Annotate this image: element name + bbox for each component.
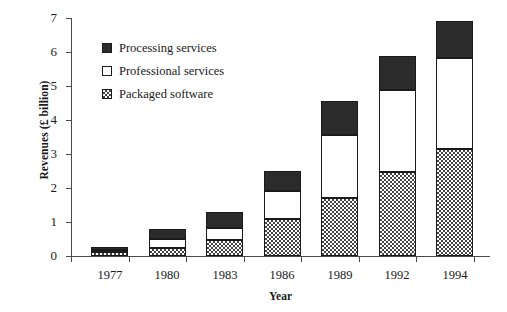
- y-axis-tick-label: 6: [51, 44, 58, 59]
- chart-legend: Processing servicesProfessional services…: [102, 38, 224, 107]
- bar-segment: [436, 149, 473, 256]
- legend-item-label: Processing services: [119, 41, 217, 55]
- y-axis-tick-label: 1: [51, 214, 58, 229]
- y-axis-title: Revenues (£ billion): [38, 40, 50, 220]
- y-axis-tick: 6: [66, 52, 72, 53]
- x-axis-title: Year: [71, 290, 490, 302]
- bar-segment: [264, 171, 301, 191]
- x-axis-tick-label: 1992: [367, 268, 427, 283]
- x-axis-tick: [71, 256, 72, 262]
- legend-item-label: Professional services: [119, 64, 224, 78]
- bar-segment: [149, 229, 186, 239]
- y-axis-tick: 3: [66, 154, 72, 155]
- y-axis-tick: 5: [66, 86, 72, 87]
- y-axis-tick: 2: [66, 188, 72, 189]
- bar-segment: [91, 247, 128, 250]
- bar-segment: [321, 101, 358, 134]
- x-axis-tick-label: 1989: [310, 268, 370, 283]
- x-axis-tick-label: 1977: [80, 268, 140, 283]
- y-axis-tick-label: 3: [51, 146, 58, 161]
- bar-1992[interactable]: [379, 56, 416, 256]
- bar-segment: [321, 135, 358, 198]
- bar-1994[interactable]: [436, 21, 473, 256]
- y-axis-tick-label: 5: [51, 78, 58, 93]
- y-axis-tick: 1: [66, 222, 72, 223]
- bar-segment: [91, 250, 128, 252]
- y-axis-tick-label: 2: [51, 180, 58, 195]
- legend-item-label: Packaged software: [119, 87, 213, 101]
- x-axis-tick-label: 1980: [137, 268, 197, 283]
- bar-segment: [91, 252, 128, 256]
- bar-1986[interactable]: [264, 171, 301, 256]
- bar-1977[interactable]: [91, 246, 128, 256]
- legend-item: Processing services: [102, 38, 224, 58]
- y-axis-tick-label: 0: [51, 248, 58, 263]
- bar-segment: [206, 240, 243, 256]
- x-axis-tick: [244, 256, 245, 262]
- legend-item: Packaged software: [102, 84, 224, 104]
- legend-item: Professional services: [102, 61, 224, 81]
- x-axis-tick-label: 1986: [252, 268, 312, 283]
- bar-segment: [436, 58, 473, 149]
- x-axis-tick: [301, 256, 302, 262]
- bar-1989[interactable]: [321, 101, 358, 256]
- x-axis-tick: [474, 256, 475, 262]
- y-axis-tick-label: 4: [51, 112, 58, 127]
- x-axis-tick-label: 1994: [425, 268, 485, 283]
- x-axis-tick: [359, 256, 360, 262]
- bar-segment: [264, 219, 301, 256]
- x-axis-tick: [416, 256, 417, 262]
- stacked-bar-chart: Revenues (£ billion) 01234567 1977198019…: [0, 0, 507, 312]
- bar-segment: [149, 239, 186, 248]
- y-axis-tick: 7: [66, 18, 72, 19]
- bar-1980[interactable]: [149, 229, 186, 256]
- bar-segment: [321, 198, 358, 256]
- x-axis-tick: [129, 256, 130, 262]
- legend-swatch-icon: [102, 43, 112, 53]
- bar-segment: [379, 56, 416, 90]
- bar-segment: [206, 228, 243, 240]
- bar-segment: [436, 21, 473, 58]
- legend-swatch-icon: [102, 89, 112, 99]
- x-axis-tick: [186, 256, 187, 262]
- legend-swatch-icon: [102, 66, 112, 76]
- x-axis-tick-label: 1983: [195, 268, 255, 283]
- bar-1983[interactable]: [206, 212, 243, 256]
- bar-segment: [206, 212, 243, 228]
- bar-segment: [149, 248, 186, 257]
- y-axis-tick: 4: [66, 120, 72, 121]
- y-axis-tick-label: 7: [51, 10, 58, 25]
- bar-segment: [379, 172, 416, 256]
- bar-segment: [264, 191, 301, 219]
- bar-segment: [379, 90, 416, 172]
- x-axis-line: [71, 256, 490, 257]
